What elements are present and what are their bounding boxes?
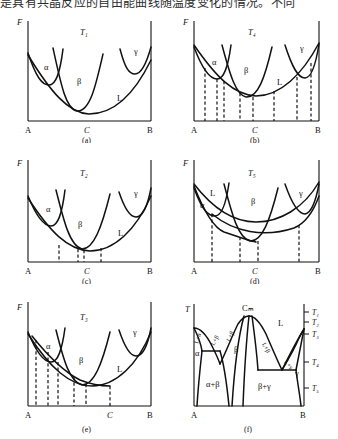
panel-a-label-beta: β — [77, 76, 81, 86]
panel-a-x-label-c: C — [84, 125, 90, 135]
panel-b-label-alpha: α — [212, 57, 217, 67]
figure-sheet: 是具有共晶反应的自由能曲线随温度变化的情况。不同 F T₁ α β γ L A … — [0, 0, 338, 439]
panel-f-tick-label-t3: T₃ — [312, 330, 319, 339]
panel-e-y-axis-label: F — [16, 302, 23, 312]
panel-d-x-label-c: C — [252, 266, 258, 276]
panel-e-x-label-a: A — [25, 410, 32, 420]
panel-c-label-beta: β — [78, 219, 82, 229]
panel-e-label-alpha: α — [46, 341, 51, 351]
panel-c-caption: (c) — [82, 277, 91, 284]
panel-d-temperature-label: T₅ — [248, 168, 256, 178]
panel-f-label-liquid: L — [278, 318, 283, 328]
panel-f-tick-label-t1: T₁ — [312, 308, 319, 317]
panel-a-x-label-a: A — [25, 125, 32, 135]
panel-f-tick-label-t2: T₂ — [312, 318, 319, 327]
panel-e-x-label-b: B — [147, 410, 153, 420]
panel-a-label-gamma: γ — [133, 46, 138, 56]
panel-b-x-label-a: A — [191, 125, 198, 135]
panel-b-x-label-c: C — [252, 125, 258, 135]
panel-d-label-beta: β — [251, 196, 255, 206]
panel-e-x-label-c: C — [107, 410, 113, 420]
panel-c-x-label-b: B — [147, 266, 153, 276]
panel-e-caption: (e) — [82, 425, 91, 434]
panel-c-label-liquid: L — [118, 228, 123, 238]
panel-b-tie-lines — [205, 63, 311, 121]
panel-b-label-beta: β — [244, 65, 248, 75]
panel-f-label-beta-gamma: β+γ — [258, 381, 271, 391]
panel-b-y-axis-label: F — [182, 17, 189, 27]
panel-f-beta-right-inner — [252, 316, 258, 370]
panel-d-label-gamma: γ — [298, 188, 303, 198]
panel-c-x-label-c: C — [84, 266, 90, 276]
panel-d-label-liquid: L — [210, 188, 215, 198]
panel-a-caption: (a) — [82, 136, 91, 143]
panel-f-label-beta: β — [234, 344, 238, 354]
panel-e-label-beta: β — [79, 355, 83, 365]
panel-f-x-label-b: B — [300, 410, 306, 420]
panel-b: F T₄ α β γ L A C B (b) — [172, 13, 334, 143]
panel-b-caption: (b) — [250, 136, 260, 143]
panel-f-label-alpha: α — [195, 348, 200, 358]
panel-c-label-gamma: γ — [133, 188, 138, 198]
panel-c: F T₂ α β γ L A C B (c) — [6, 152, 166, 284]
panel-a-y-axis-label: F — [16, 17, 23, 27]
cropped-body-text: 是具有共晶反应的自由能曲线随温度变化的情况。不同 — [0, 0, 338, 11]
panel-e: F T₃ α β γ L A C B (e) — [6, 294, 166, 434]
panel-f-tick-label-t4: T₄ — [312, 358, 319, 367]
panel-f-y-axis-label: T — [185, 304, 191, 314]
panel-f-tick-label-t5: T₅ — [312, 384, 319, 393]
panel-e-label-gamma: γ — [132, 327, 137, 337]
panel-a-x-label-b: B — [147, 125, 153, 135]
panel-c-temperature-label: T₂ — [80, 168, 88, 178]
panel-f-label-congruent-point: Cₘ — [242, 303, 254, 313]
panel-c-y-axis-label: F — [16, 158, 23, 168]
panel-f-beta-left-boundary — [220, 351, 229, 406]
panel-f-caption: (f) — [244, 425, 252, 434]
panel-f-label-l-gamma: L+γ — [283, 358, 295, 370]
panel-a-label-alpha: α — [44, 62, 49, 72]
panel-f-label-alpha-beta: α+β — [206, 379, 220, 389]
panel-f-label-gamma: γ — [294, 368, 299, 378]
panel-d: F T₅ L α β γ A C B (d) — [172, 152, 334, 284]
panel-c-x-label-a: A — [25, 266, 32, 276]
panel-d-x-label-a: A — [191, 266, 198, 276]
panel-d-label-alpha: α — [200, 200, 205, 210]
panel-f-alpha-solvus — [197, 351, 202, 406]
panel-f: T T₁ T₂ T₃ T₄ T₅ L α — [172, 294, 334, 434]
panel-d-caption: (d) — [250, 277, 260, 284]
panel-d-tie-lines — [212, 214, 299, 262]
panel-a-temperature-label: T₁ — [80, 27, 88, 37]
panel-e-temperature-label: T₃ — [80, 312, 88, 322]
panel-b-temperature-label: T₄ — [248, 27, 256, 37]
panel-f-label-l-beta-left: L+β — [209, 334, 220, 346]
panel-a-label-liquid: L — [117, 93, 122, 103]
panel-f-x-label-a: A — [191, 410, 198, 420]
cropped-body-text-line: 是具有共晶反应的自由能曲线随温度变化的情况。不同 — [0, 0, 338, 10]
panel-d-x-label-b: B — [315, 266, 321, 276]
panel-f-beta-left-inner — [232, 316, 244, 406]
panel-f-beta-right-boundary — [243, 316, 249, 406]
panel-b-label-liquid: L — [277, 77, 282, 87]
panel-f-right-tick-marks — [304, 312, 309, 388]
panel-e-alpha-tangent — [32, 336, 110, 386]
panel-c-label-alpha: α — [46, 204, 51, 214]
panel-d-y-axis-label: F — [182, 158, 189, 168]
panel-b-x-label-b: B — [315, 125, 321, 135]
panel-a: F T₁ α β γ L A C B (a) — [6, 13, 166, 143]
panel-b-label-gamma: γ — [299, 43, 304, 53]
panel-e-label-liquid: L — [117, 364, 122, 374]
